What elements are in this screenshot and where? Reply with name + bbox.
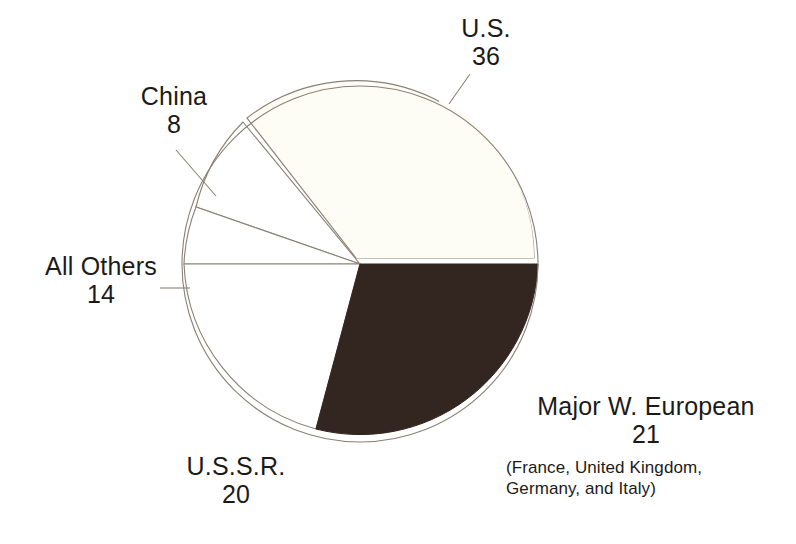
slice-label-ussr-value: 20 bbox=[138, 480, 334, 508]
pie-chart: U.S. 36 China 8 All Others 14 U.S.S.R. 2… bbox=[0, 0, 796, 544]
leader-line-us bbox=[449, 74, 470, 104]
slice-label-us-name: U.S. bbox=[398, 14, 574, 42]
slice-label-major-w-european: Major W. European 21 (France, United Kin… bbox=[496, 392, 796, 500]
slice-label-major-w-european-value: 21 bbox=[496, 420, 796, 448]
slice-label-all-others-value: 14 bbox=[8, 280, 194, 308]
slice-label-us: U.S. 36 bbox=[398, 14, 574, 70]
slice-label-major-w-european-name: Major W. European bbox=[496, 392, 796, 420]
slice-label-all-others-name: All Others bbox=[8, 252, 194, 280]
slice-label-all-others: All Others 14 bbox=[8, 252, 194, 308]
slice-label-major-w-european-note: (France, United Kingdom, Germany, and It… bbox=[496, 457, 796, 500]
slice-label-major-w-european-note-line1: (France, United Kingdom, bbox=[506, 457, 796, 478]
slice-label-us-value: 36 bbox=[398, 42, 574, 70]
slice-label-ussr: U.S.S.R. 20 bbox=[138, 452, 334, 508]
slice-label-china: China 8 bbox=[86, 82, 262, 138]
slice-label-china-name: China bbox=[86, 82, 262, 110]
slice-label-ussr-name: U.S.S.R. bbox=[138, 452, 334, 480]
slice-label-china-value: 8 bbox=[86, 110, 262, 138]
slice-label-major-w-european-note-line2: Germany, and Italy) bbox=[506, 478, 796, 499]
